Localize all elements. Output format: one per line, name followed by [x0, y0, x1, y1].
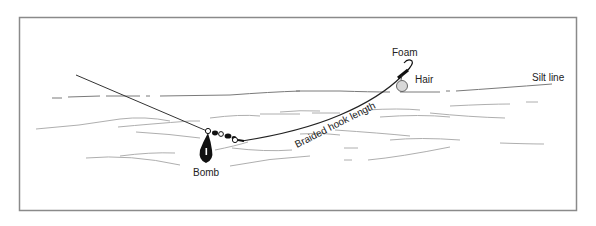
silt-line [52, 84, 552, 98]
hook-foam [398, 60, 412, 80]
label-foam: Foam [392, 47, 418, 58]
silt-strokes [36, 102, 544, 166]
label-braided-hook-length: Braided hook length [293, 100, 377, 150]
swivel-chain [205, 128, 244, 142]
bomb-weight [200, 133, 213, 163]
rig-diagram: Foam Hair Silt line Bomb Braided hook le… [0, 0, 596, 226]
label-bomb: Bomb [193, 167, 220, 178]
label-silt-line: Silt line [532, 72, 565, 83]
hair-bait [397, 81, 408, 92]
label-hair: Hair [415, 74, 434, 85]
diagram-canvas: Foam Hair Silt line Bomb Braided hook le… [0, 0, 596, 226]
